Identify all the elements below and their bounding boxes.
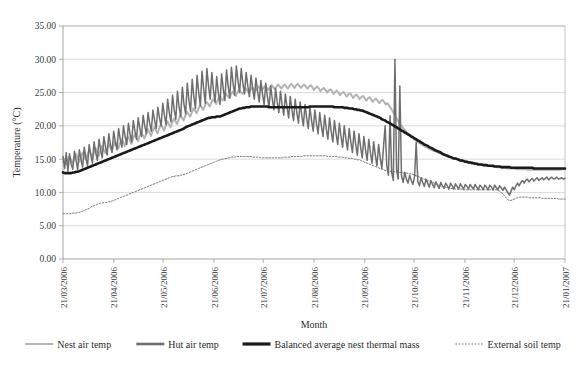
- x-axis-tick-label: 21/04/2006: [109, 267, 119, 309]
- temperature-line-chart: 0.005.0010.0015.0020.0025.0030.0035.0021…: [0, 0, 584, 367]
- legend-label-2: Balanced average nest thermal mass: [275, 339, 420, 350]
- x-axis-tick-label: 21/05/2006: [159, 267, 169, 309]
- x-axis-tick-label: 21/06/2006: [210, 267, 220, 309]
- legend-label-0: Nest air temp: [57, 339, 111, 350]
- y-axis-tick-label: 20.00: [35, 121, 57, 131]
- chart-canvas: 0.005.0010.0015.0020.0025.0030.0035.0021…: [0, 0, 584, 367]
- x-axis-tick-label: 21/10/2006: [410, 267, 420, 309]
- x-axis-tick-label: 21/08/2006: [310, 267, 320, 309]
- x-axis-title: Month: [301, 319, 328, 330]
- plot-background: [63, 26, 565, 259]
- x-axis-tick-label: 21/03/2006: [59, 267, 69, 309]
- y-axis-tick-label: 5.00: [39, 221, 56, 231]
- legend-label-1: Hut air temp: [168, 339, 219, 350]
- x-axis-tick-label: 21/11/2006: [461, 267, 471, 308]
- y-axis-title: Temperature (°C): [11, 107, 23, 177]
- y-axis-tick-label: 0.00: [39, 254, 56, 264]
- y-axis-tick-label: 15.00: [35, 155, 57, 165]
- y-axis-tick-label: 30.00: [35, 55, 57, 65]
- y-axis-tick-label: 25.00: [35, 88, 57, 98]
- x-axis-tick-label: 21/07/2006: [259, 267, 269, 309]
- legend-label-3: External soil temp: [487, 339, 560, 350]
- x-axis-tick-label: 21/01/2007: [561, 267, 571, 309]
- y-axis-tick-label: 35.00: [35, 21, 57, 31]
- y-axis-tick-label: 10.00: [35, 188, 57, 198]
- x-axis-tick-label: 21/12/2006: [510, 267, 520, 309]
- x-axis-tick-label: 21/09/2006: [360, 267, 370, 309]
